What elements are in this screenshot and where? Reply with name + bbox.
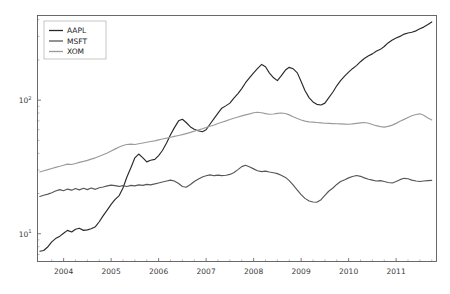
figure-canvas: 20042005200620072008200920102011 101102 … bbox=[0, 0, 450, 294]
chart-legend[interactable]: AAPLMSFTXOM bbox=[44, 21, 106, 59]
x-tick-label: 2006 bbox=[149, 267, 168, 276]
x-tick-label: 2009 bbox=[292, 267, 311, 276]
x-tick-label: 2007 bbox=[197, 267, 216, 276]
x-tick-label: 2011 bbox=[387, 267, 406, 276]
legend-label-msft[interactable]: MSFT bbox=[67, 37, 87, 46]
x-tick-label: 2005 bbox=[102, 267, 121, 276]
x-tick-label: 2010 bbox=[339, 267, 358, 276]
legend-label-aapl[interactable]: AAPL bbox=[67, 26, 87, 35]
stock-price-line-chart[interactable]: 20042005200620072008200920102011 101102 … bbox=[0, 0, 450, 294]
x-tick-label: 2004 bbox=[54, 267, 73, 276]
x-tick-label: 2008 bbox=[244, 267, 263, 276]
legend-label-xom[interactable]: XOM bbox=[67, 47, 84, 56]
